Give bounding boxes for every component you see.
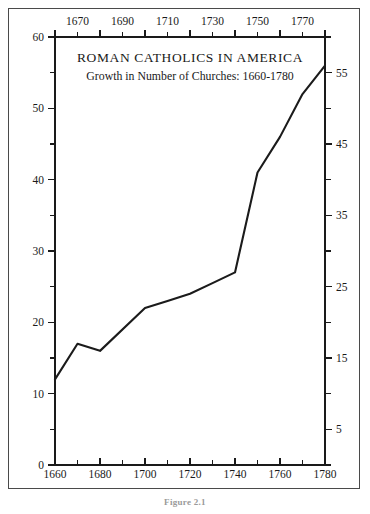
y-tick-label: 40 (33, 174, 45, 186)
y-tick-label: 10 (33, 388, 45, 400)
x-tick-label: 1760 (269, 468, 292, 480)
y-right-tick-label: 35 (336, 209, 348, 221)
chart-subtitle: Growth in Number of Churches: 1660-1780 (86, 69, 293, 83)
y-right-tick-label: 25 (336, 281, 348, 293)
x-tick-label: 1740 (224, 468, 247, 480)
x-top-tick-label: 1670 (66, 15, 89, 27)
y-tick-label: 30 (33, 245, 45, 257)
y-tick-label: 50 (33, 102, 45, 114)
figure-root: 1660 1680 1700 1720 1740 1760 1780 1670 … (0, 0, 370, 514)
y-right-tick-label: 45 (336, 138, 348, 150)
x-tick-label: 1780 (314, 468, 337, 480)
x-top-tick-label: 1710 (156, 15, 179, 27)
plot-background (55, 37, 325, 465)
x-tick-label: 1720 (179, 468, 202, 480)
axis-top-labels: 1670 1690 1710 1730 1750 1770 (66, 15, 314, 27)
axis-left-ticks (48, 37, 55, 465)
x-tick-label: 1680 (89, 468, 112, 480)
x-tick-label: 1700 (134, 468, 157, 480)
line-chart: 1660 1680 1700 1720 1740 1760 1780 1670 … (0, 0, 370, 514)
axis-bottom-labels: 1660 1680 1700 1720 1740 1760 1780 (44, 468, 337, 480)
axis-top-ticks (55, 30, 325, 37)
y-tick-label: 60 (33, 31, 45, 43)
axis-left-labels: 0 10 20 30 40 50 60 (33, 31, 45, 471)
axis-right-labels: 5 15 25 35 45 55 (336, 67, 348, 436)
x-top-tick-label: 1770 (291, 15, 314, 27)
x-top-tick-label: 1690 (111, 15, 134, 27)
chart-title: ROMAN CATHOLICS IN AMERICA (77, 50, 303, 65)
figure-caption: Figure 2.1 (0, 497, 370, 514)
y-tick-label: 0 (38, 459, 44, 471)
x-top-tick-label: 1730 (201, 15, 224, 27)
y-right-tick-label: 5 (336, 423, 342, 435)
y-right-tick-label: 55 (336, 67, 348, 79)
plot-area: 1660 1680 1700 1720 1740 1760 1780 1670 … (33, 15, 348, 480)
x-top-tick-label: 1750 (246, 15, 269, 27)
x-tick-label: 1660 (44, 468, 67, 480)
y-right-tick-label: 15 (336, 352, 348, 364)
axis-right-ticks (325, 37, 332, 465)
y-tick-label: 20 (33, 316, 45, 328)
